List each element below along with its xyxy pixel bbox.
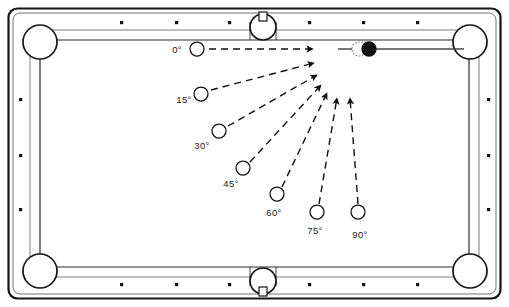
angle-label-60: 60° <box>266 207 281 218</box>
diamond-bottom-5 <box>362 283 365 286</box>
cue-ball-15[interactable] <box>194 87 208 101</box>
diamond-bottom-2 <box>175 283 178 286</box>
cue-ball-45[interactable] <box>236 161 250 175</box>
pool-table-diagram: 0° 15° 30° 45° 60° 75° 90° <box>0 0 509 307</box>
cue-ball-0[interactable] <box>190 42 204 56</box>
cue-ball-60[interactable] <box>270 187 284 201</box>
diamond-right-2 <box>487 154 490 157</box>
angle-label-90: 90° <box>352 229 367 240</box>
diamond-top-4 <box>308 21 311 24</box>
object-ball[interactable] <box>362 42 376 56</box>
diamond-top-2 <box>175 21 178 24</box>
diamond-right-3 <box>487 208 490 211</box>
diamond-top-3 <box>228 21 231 24</box>
table-body <box>9 9 501 299</box>
cue-ball-75[interactable] <box>310 205 324 219</box>
angle-label-45: 45° <box>223 178 238 189</box>
cushion-inner-boundary <box>40 40 469 267</box>
angle-label-75: 75° <box>307 225 322 236</box>
diamond-top-1 <box>120 21 123 24</box>
diamond-bottom-3 <box>228 283 231 286</box>
diamond-left-1 <box>19 98 22 101</box>
angle-label-0: 0° <box>172 44 182 55</box>
angle-label-30: 30° <box>194 140 209 151</box>
pocket-bottom-left[interactable] <box>23 254 57 288</box>
diamond-right-1 <box>487 98 490 101</box>
pocket-bottom-right[interactable] <box>453 254 487 288</box>
pocket-top-right[interactable] <box>453 25 487 59</box>
diamond-left-3 <box>19 208 22 211</box>
diamond-bottom-1 <box>120 283 123 286</box>
diamond-bottom-6 <box>416 283 419 286</box>
pocket-neck-top-middle <box>259 12 267 21</box>
pocket-top-left[interactable] <box>23 25 57 59</box>
cue-ball-30[interactable] <box>212 124 226 138</box>
diagram-canvas: 0° 15° 30° 45° 60° 75° 90° <box>0 0 509 307</box>
diamond-bottom-4 <box>308 283 311 286</box>
pocket-neck-bottom-middle <box>259 287 267 296</box>
angle-label-15: 15° <box>176 94 191 105</box>
diamond-left-2 <box>19 154 22 157</box>
object-ball-stripe <box>362 42 376 56</box>
diamond-top-6 <box>416 21 419 24</box>
diamond-top-5 <box>362 21 365 24</box>
cue-ball-90[interactable] <box>351 205 365 219</box>
